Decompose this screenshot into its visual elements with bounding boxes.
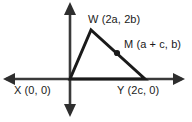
vertex-label-x: X (0, 0) [14, 84, 51, 96]
midpoint-label-m: M (a + c, b) [124, 38, 181, 50]
vertex-label-w: W (2a, 2b) [88, 13, 140, 25]
vertex-label-y: Y (2c, 0) [117, 84, 159, 96]
midpoint-m-dot [114, 50, 120, 56]
x-axis-right-arrowhead [173, 73, 185, 85]
y-axis-top-arrowhead [64, 2, 76, 15]
geometry-figure: W (2a, 2b) M (a + c, b) X (0, 0) Y (2c, … [0, 0, 192, 122]
y-axis-bottom-arrowhead [64, 104, 76, 117]
